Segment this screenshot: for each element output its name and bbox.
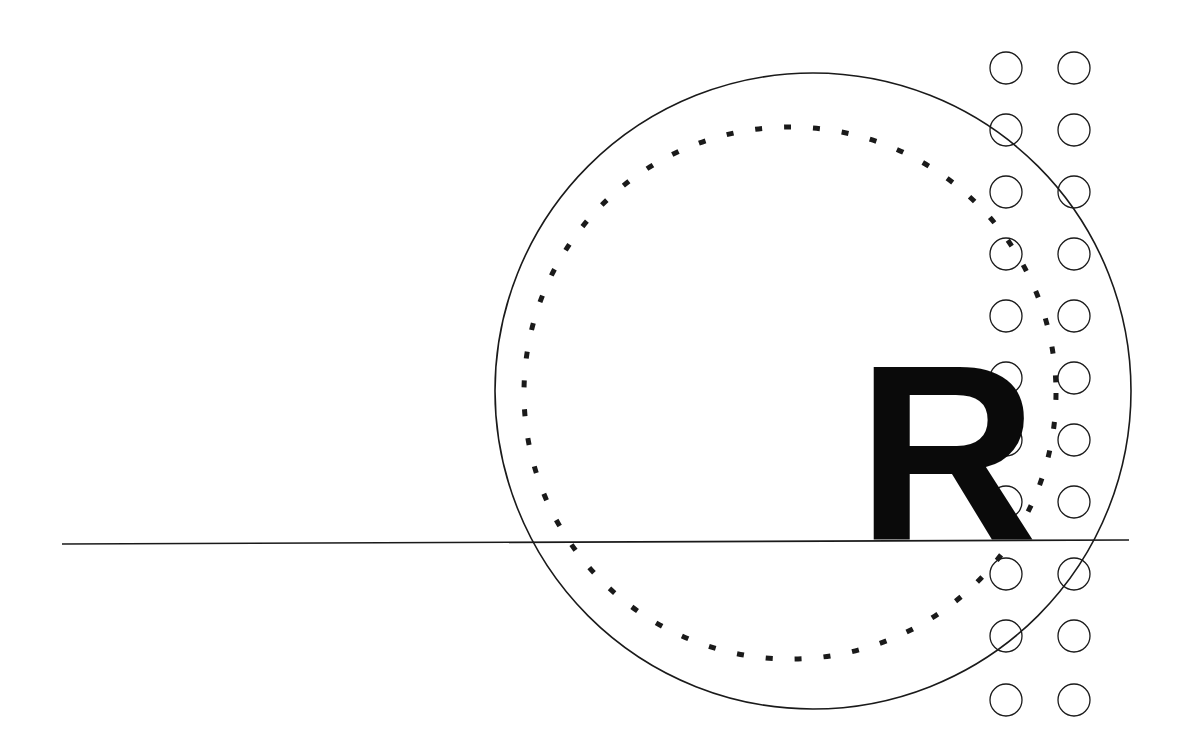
letter-r-glyph: R bbox=[857, 314, 1038, 593]
design-canvas: R bbox=[0, 0, 1184, 746]
figure-svg: R bbox=[0, 0, 1184, 746]
